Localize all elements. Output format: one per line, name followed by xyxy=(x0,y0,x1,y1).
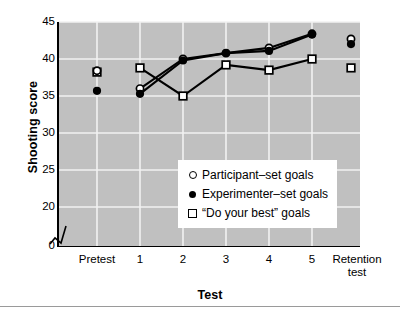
open-square-icon xyxy=(185,206,200,220)
x-tick-label: 5 xyxy=(309,253,315,266)
y-axis-break-icon xyxy=(48,224,68,248)
data-point-marker xyxy=(347,64,355,72)
data-point-marker xyxy=(179,56,187,64)
x-tick-label: Pretest xyxy=(79,253,115,266)
x-tick-label: 4 xyxy=(266,253,272,266)
y-tick-label: 25 xyxy=(29,164,55,175)
data-point-marker xyxy=(136,64,144,72)
open-circle-icon xyxy=(185,168,200,182)
x-axis-line xyxy=(57,246,360,248)
y-tick-label: 45 xyxy=(29,16,55,27)
data-point-marker xyxy=(222,49,230,57)
x-tick-label: 3 xyxy=(223,253,229,266)
data-point-marker xyxy=(308,55,316,63)
x-axis-title: Test xyxy=(60,288,360,302)
y-tick-label: 20 xyxy=(29,201,55,212)
data-point-marker xyxy=(265,66,273,74)
x-tick-label: Retention test xyxy=(332,253,381,278)
y-tick-label: 30 xyxy=(29,127,55,138)
y-axis-line xyxy=(57,22,59,246)
data-point-marker xyxy=(347,40,355,48)
legend-item-label: Experimenter–set goals xyxy=(200,187,328,201)
series-markers-do-your-best-goals xyxy=(93,55,355,100)
legend-item-participant-set-goals: Participant–set goals xyxy=(185,165,328,184)
x-tick-label: 2 xyxy=(180,253,186,266)
y-tick-label: 40 xyxy=(29,53,55,64)
filled-circle-icon xyxy=(185,187,200,201)
chart-figure: Shooting score 45 40 35 30 25 20 0 xyxy=(0,0,400,318)
chart-legend: Participant–set goals Experimenter–set g… xyxy=(178,160,337,228)
y-tick-label: 35 xyxy=(29,90,55,101)
data-point-marker xyxy=(93,87,101,95)
data-point-marker xyxy=(265,47,273,55)
legend-item-label: “Do your best” goals xyxy=(200,206,310,220)
legend-item-do-your-best-goals: “Do your best” goals xyxy=(185,203,328,222)
legend-item-label: Participant–set goals xyxy=(200,168,313,182)
data-point-marker xyxy=(136,90,144,98)
x-tick-label: 1 xyxy=(137,253,143,266)
data-point-marker xyxy=(179,92,187,100)
legend-item-experimenter-set-goals: Experimenter–set goals xyxy=(185,184,328,203)
footer-divider xyxy=(0,306,400,307)
data-point-marker xyxy=(222,61,230,69)
data-point-marker xyxy=(93,67,100,74)
data-point-marker xyxy=(308,31,316,39)
